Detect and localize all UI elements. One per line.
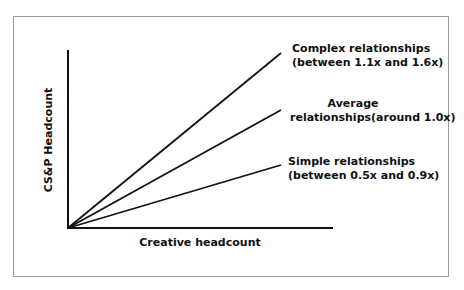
label-simple: Simple relationships (between 0.5x and 0… [288,155,414,183]
label-complex: Complex relationships (between 1.1x and … [292,42,412,70]
line-average [68,110,281,228]
line-simple [68,165,281,228]
x-axis-label: Creative headcount [139,236,260,249]
label-average-line1: Average [290,97,416,111]
label-average-line2: relationships(around 1.0x) [290,111,416,125]
y-axis-label: CS&P Headcount [42,88,55,193]
label-simple-line2: (between 0.5x and 0.9x) [288,169,414,183]
label-complex-line2: (between 1.1x and 1.6x) [292,56,412,70]
line-complex [68,53,281,228]
label-average: Average relationships(around 1.0x) [290,97,416,125]
label-complex-line1: Complex relationships [292,42,412,56]
label-simple-line1: Simple relationships [288,155,414,169]
